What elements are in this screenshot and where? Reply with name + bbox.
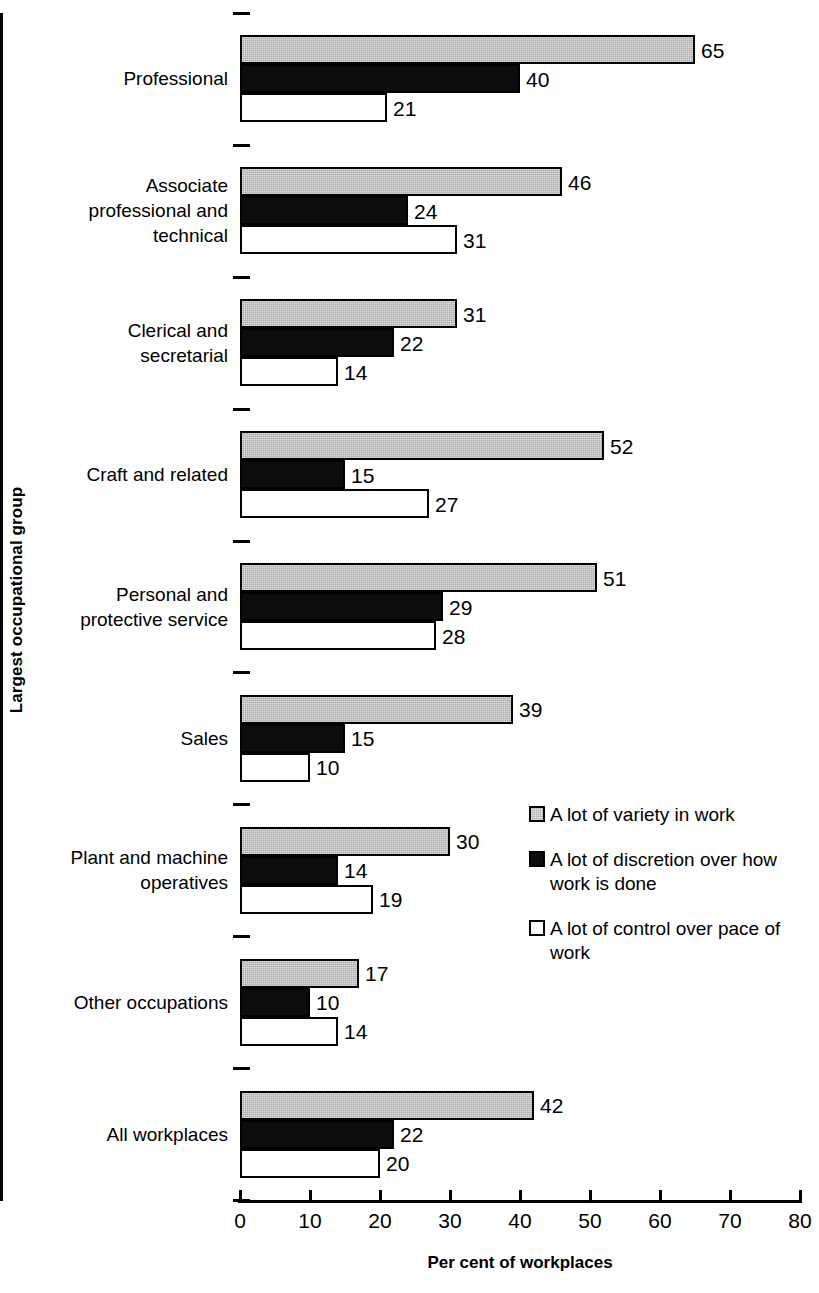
x-axis-title: Per cent of workplaces — [240, 1253, 800, 1273]
bar-row: 15 — [240, 724, 819, 753]
bar-control[interactable] — [240, 753, 310, 782]
x-axis-tick-label: 20 — [350, 1210, 410, 1231]
bar-row: 10 — [240, 988, 819, 1017]
bar-discretion[interactable] — [240, 856, 338, 885]
bar-row: 42 — [240, 1091, 819, 1120]
bar-value-label: 39 — [513, 699, 542, 720]
bar-discretion[interactable] — [240, 988, 310, 1017]
y-axis-tick — [233, 12, 250, 15]
bar-control[interactable] — [240, 1149, 380, 1178]
category-label-line: Professional — [32, 66, 228, 91]
bar-control[interactable] — [240, 93, 387, 122]
bar-row: 40 — [240, 64, 819, 93]
bar-row: 10 — [240, 753, 819, 782]
bar-discretion[interactable] — [240, 328, 394, 357]
bar-value-label: 21 — [387, 97, 416, 118]
legend-swatch-discretion — [529, 851, 545, 867]
bar-row: 28 — [240, 621, 819, 650]
category-label-line: Sales — [32, 726, 228, 751]
y-axis-tick — [233, 540, 250, 543]
bar-control[interactable] — [240, 1017, 338, 1046]
bar-row: 24 — [240, 196, 819, 225]
bar-value-label: 17 — [359, 963, 388, 984]
bar-variety[interactable] — [240, 1091, 534, 1120]
bar-value-label: 42 — [534, 1095, 563, 1116]
y-axis-tick — [233, 671, 250, 674]
legend-label-line: A lot of discretion over how — [550, 848, 777, 872]
category-label-line: Plant and machine — [32, 845, 228, 870]
bar-row: 14 — [240, 1017, 819, 1046]
bar-row: 65 — [240, 35, 819, 64]
legend-item[interactable]: A lot of discretion over howwork is done — [529, 848, 814, 896]
category-label-line: All workplaces — [32, 1122, 228, 1147]
category-label-line: professional and — [32, 198, 228, 223]
bar-value-label: 14 — [338, 860, 367, 881]
legend-item[interactable]: A lot of control over pace ofwork — [529, 917, 814, 965]
bar-row: 29 — [240, 592, 819, 621]
bar-row: 21 — [240, 93, 819, 122]
bar-discretion[interactable] — [240, 592, 443, 621]
bar-discretion[interactable] — [240, 196, 408, 225]
bar-value-label: 29 — [443, 596, 472, 617]
x-axis-tick — [379, 1190, 382, 1203]
bar-control[interactable] — [240, 885, 373, 914]
y-axis-line — [0, 13, 3, 1201]
bar-variety[interactable] — [240, 431, 604, 460]
bar-variety[interactable] — [240, 563, 597, 592]
legend-swatch-variety — [529, 806, 545, 822]
category-label-line: Clerical and — [32, 318, 228, 343]
bar-row: 27 — [240, 489, 819, 518]
bar-value-label: 27 — [429, 493, 458, 514]
category-label-line: Other occupations — [32, 990, 228, 1015]
x-axis-tick — [729, 1190, 732, 1203]
bar-value-label: 15 — [345, 728, 374, 749]
bar-row: 22 — [240, 328, 819, 357]
legend-label-line: A lot of control over pace of — [550, 917, 780, 941]
bar-variety[interactable] — [240, 299, 457, 328]
bar-row: 31 — [240, 299, 819, 328]
bar-discretion[interactable] — [240, 1120, 394, 1149]
category-label: Plant and machineoperatives — [32, 845, 228, 895]
bar-chart: Largest occupational group ProfessionalA… — [0, 0, 819, 1293]
x-axis-tick-label: 30 — [420, 1210, 480, 1231]
category-label-line: operatives — [32, 870, 228, 895]
category-label: All workplaces — [32, 1122, 228, 1147]
bar-control[interactable] — [240, 225, 457, 254]
bar-control[interactable] — [240, 621, 436, 650]
bar-variety[interactable] — [240, 695, 513, 724]
y-axis-tick — [233, 408, 250, 411]
bar-value-label: 30 — [450, 831, 479, 852]
bar-variety[interactable] — [240, 959, 359, 988]
category-label: Craft and related — [32, 462, 228, 487]
legend-label: A lot of discretion over howwork is done — [550, 848, 777, 896]
bar-variety[interactable] — [240, 827, 450, 856]
x-axis-tick-label: 40 — [490, 1210, 550, 1231]
bar-value-label: 20 — [380, 1153, 409, 1174]
bar-row: 52 — [240, 431, 819, 460]
x-axis-tick — [659, 1190, 662, 1203]
bar-value-label: 10 — [310, 992, 339, 1013]
category-label: Personal andprotective service — [32, 582, 228, 632]
bar-discretion[interactable] — [240, 64, 520, 93]
bar-value-label: 65 — [695, 39, 724, 60]
bar-variety[interactable] — [240, 35, 695, 64]
bar-row: 14 — [240, 357, 819, 386]
bar-discretion[interactable] — [240, 460, 345, 489]
x-axis-tick-label: 50 — [560, 1210, 620, 1231]
legend-label-line: work is done — [550, 872, 777, 896]
bar-control[interactable] — [240, 489, 429, 518]
bar-value-label: 22 — [394, 1124, 423, 1145]
y-axis-tick — [233, 1067, 250, 1070]
x-axis-tick-label: 10 — [280, 1210, 340, 1231]
legend-item[interactable]: A lot of variety in work — [529, 803, 814, 827]
bar-group: 312214 — [240, 299, 819, 386]
category-label: Sales — [32, 726, 228, 751]
category-label-line: technical — [32, 223, 228, 248]
bar-value-label: 24 — [408, 200, 437, 221]
bar-control[interactable] — [240, 357, 338, 386]
bar-discretion[interactable] — [240, 724, 345, 753]
bar-variety[interactable] — [240, 167, 562, 196]
bar-value-label: 10 — [310, 757, 339, 778]
category-label-line: Associate — [32, 173, 228, 198]
x-axis-tick — [589, 1190, 592, 1203]
